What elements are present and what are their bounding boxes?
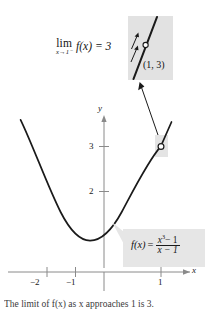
x-tick-label-neg2: −2 <box>30 277 40 287</box>
function-formula: f(x)= x3− 1 x − 1 <box>131 236 180 256</box>
formula-fraction: x3− 1 x − 1 <box>156 236 180 256</box>
y-axis-arrowhead <box>101 115 106 122</box>
callout-leader-arrowhead <box>138 82 144 90</box>
formula-denominator: x − 1 <box>156 246 180 256</box>
y-tick-label-2: 2 <box>89 186 94 196</box>
x-axis-arrowhead <box>183 269 190 274</box>
callout-leader-line <box>141 86 158 135</box>
inset-approach-arrow-lower-shaft <box>131 48 137 62</box>
formula-lhs-label: f(x) <box>131 239 146 250</box>
formula-numerator-rest: − 1 <box>165 235 177 245</box>
limit-expression: lim x→1⁻ f(x) = 3 <box>56 38 111 55</box>
y-tick-label-3: 3 <box>89 141 94 151</box>
limit-body-label: f(x) = 3 <box>76 41 111 53</box>
formula-equals-label: = <box>148 239 154 250</box>
inset-approach-arrow-upper-head <box>135 33 139 38</box>
limit-graph-figure: lim x→1⁻ f(x) = 3 (1, 3) f(x)= x3− 1 x −… <box>0 0 206 309</box>
limit-operator-stack: lim x→1⁻ <box>56 38 72 55</box>
function-curve <box>21 120 172 241</box>
inset-approach-arrow-lower-head <box>134 46 138 51</box>
open-circle-hole-marker <box>158 144 164 150</box>
x-tick-label-neg1: −1 <box>66 277 76 287</box>
y-axis-label: y <box>98 103 102 113</box>
formula-callout-pointer <box>112 222 126 248</box>
x-axis-label: x <box>192 265 196 275</box>
limit-subscript-label: x→1⁻ <box>56 49 72 56</box>
inset-point-label: (1, 3) <box>143 60 165 70</box>
figure-caption: The limit of f(x) as x approaches 1 is 3… <box>4 299 204 309</box>
x-tick-label-1: 1 <box>158 277 163 287</box>
inset-open-circle-hole-marker <box>143 42 148 47</box>
